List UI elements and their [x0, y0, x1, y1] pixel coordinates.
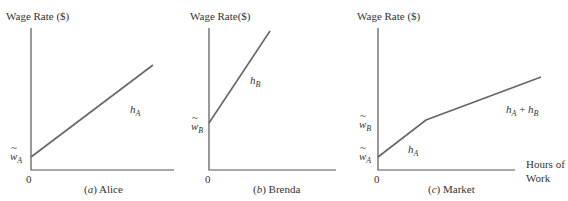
panel-market: Wage Rate ($) hA hA + hB ~ wB ~ wA 0 Hou…	[357, 10, 565, 196]
wB-label: wB	[191, 120, 203, 135]
wA-label: wA	[10, 150, 22, 165]
market-line	[378, 77, 541, 157]
axes	[209, 28, 336, 170]
y-axis-label: Wage Rate ($)	[357, 10, 421, 23]
panel-brenda: Wage Rate($) hB ~ wB 0 (b) Brenda	[190, 10, 336, 196]
origin-label: 0	[205, 173, 211, 185]
origin-label: 0	[374, 173, 380, 185]
caption-market: (c) Market	[428, 183, 475, 196]
x-axis-label-line1: Hours of	[526, 158, 565, 170]
y-axis-label: Wage Rate($)	[190, 10, 251, 23]
hB-line	[209, 31, 270, 123]
x-axis-label-line2: Work	[526, 172, 551, 184]
caption-brenda: (b) Brenda	[253, 183, 300, 196]
hA-plus-hB-label: hA + hB	[506, 103, 539, 118]
axes	[378, 28, 515, 170]
axes	[31, 28, 174, 170]
wB-label: wB	[359, 118, 371, 133]
caption-alice: (a) Alice	[84, 183, 123, 196]
hA-label: hA	[130, 103, 141, 118]
wA-label: wA	[359, 150, 371, 165]
y-axis-label: Wage Rate ($)	[6, 10, 70, 23]
origin-label: 0	[26, 173, 32, 185]
hA-label: hA	[408, 143, 419, 158]
panel-alice: Wage Rate ($) hA ~ wA 0 (a) Alice	[6, 10, 174, 196]
hB-label: hB	[250, 74, 261, 89]
figure: Wage Rate ($) hA ~ wA 0 (a) Alice Wage R…	[0, 0, 568, 201]
